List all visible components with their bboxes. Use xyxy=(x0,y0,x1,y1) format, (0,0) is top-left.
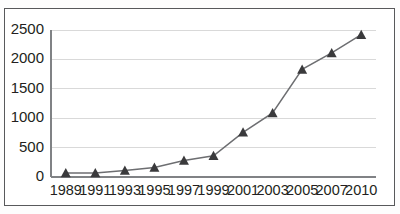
data-point-markers xyxy=(61,30,366,177)
data-point-marker xyxy=(356,30,366,39)
data-point-marker xyxy=(268,108,278,117)
x-tick-label: 2003 xyxy=(256,182,288,198)
x-tick-label: 2001 xyxy=(227,182,259,198)
y-tick-label: 2500 xyxy=(11,20,44,37)
x-tick-label: 2005 xyxy=(286,182,318,198)
data-point-marker xyxy=(297,64,307,73)
x-tick-label: 1993 xyxy=(109,182,141,198)
x-axis-tick-labels: 1989199119931995199719992001200320052007… xyxy=(50,182,378,198)
x-tick-label: 1989 xyxy=(50,182,82,198)
y-axis-tick-labels: 05001000150020002500 xyxy=(11,20,44,184)
data-point-marker xyxy=(238,127,248,136)
chart-figure: 05001000150020002500 1989199119931995199… xyxy=(0,0,400,214)
gridlines-group xyxy=(51,30,376,148)
y-tick-label: 1500 xyxy=(11,79,44,96)
y-tick-label: 1000 xyxy=(11,108,44,125)
data-point-marker xyxy=(327,48,337,57)
y-tick-label: 500 xyxy=(19,138,44,155)
x-tick-label: 2007 xyxy=(316,182,348,198)
x-tick-label: 1991 xyxy=(79,182,111,198)
x-tick-label: 2010 xyxy=(345,182,377,198)
y-tick-label: 2000 xyxy=(11,49,44,66)
y-tick-label: 0 xyxy=(36,167,44,184)
line-chart: 05001000150020002500 1989199119931995199… xyxy=(5,9,394,205)
x-tick-label: 1999 xyxy=(197,182,229,198)
chart-frame: 05001000150020002500 1989199119931995199… xyxy=(4,8,395,206)
x-tick-label: 1997 xyxy=(168,182,200,198)
x-tick-label: 1995 xyxy=(138,182,170,198)
